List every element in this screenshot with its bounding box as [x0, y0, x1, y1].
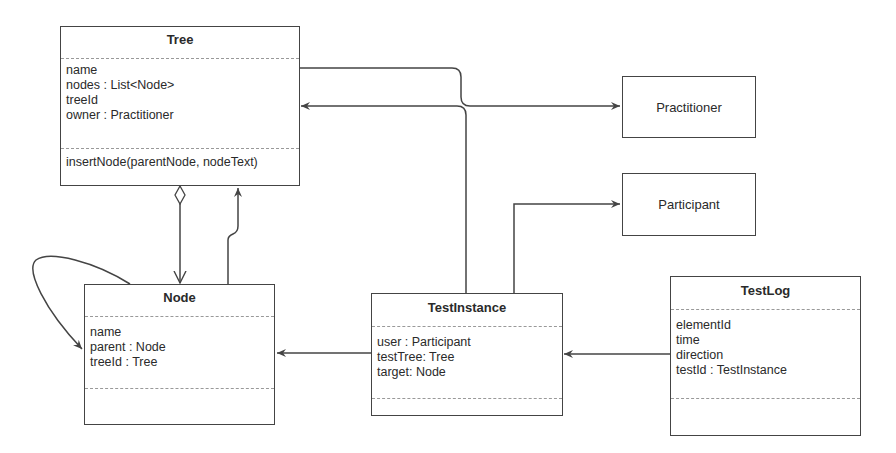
edge-node-tree — [228, 188, 238, 284]
attribute: nodes : List<Node> — [66, 78, 299, 93]
attribute: target: Node — [377, 365, 562, 380]
edge-testinstance-participant — [514, 204, 620, 293]
class-attributes: user : Participant testTree: Tree target… — [372, 327, 562, 399]
class-attributes: name nodes : List<Node> treeId owner : P… — [61, 59, 299, 149]
class-testinstance[interactable]: TestInstance user : Participant testTree… — [371, 293, 563, 416]
class-title: Practitioner — [656, 100, 722, 115]
class-title: Node — [85, 285, 274, 317]
class-methods — [85, 389, 274, 395]
attribute: direction — [676, 348, 860, 363]
attribute: testTree: Tree — [377, 350, 562, 365]
class-practitioner[interactable]: Practitioner — [622, 76, 756, 138]
class-title: TestInstance — [372, 294, 562, 327]
class-methods: insertNode(parentNode, nodeText) — [61, 149, 299, 170]
class-participant[interactable]: Participant — [622, 173, 756, 236]
class-node[interactable]: Node name parent : Node treeId : Tree — [84, 284, 275, 425]
attribute: user : Participant — [377, 335, 562, 350]
edge-testinstance-tree — [301, 106, 466, 293]
attribute: name — [90, 325, 274, 340]
class-methods — [671, 399, 860, 405]
edge-tree-practitioner — [299, 68, 620, 106]
class-methods — [372, 399, 562, 405]
attribute: elementId — [676, 318, 860, 333]
class-attributes: name parent : Node treeId : Tree — [85, 317, 274, 389]
attribute: parent : Node — [90, 340, 274, 355]
class-title: Participant — [658, 197, 719, 212]
method: insertNode(parentNode, nodeText) — [66, 155, 299, 170]
class-attributes: elementId time direction testId : TestIn… — [671, 310, 860, 399]
class-tree[interactable]: Tree name nodes : List<Node> treeId owne… — [60, 26, 300, 186]
class-testlog[interactable]: TestLog elementId time direction testId … — [670, 276, 861, 436]
attribute: treeId : Tree — [90, 355, 274, 370]
attribute: name — [66, 63, 299, 78]
attribute: testId : TestInstance — [676, 363, 860, 378]
class-title: TestLog — [671, 277, 860, 310]
class-title: Tree — [61, 27, 299, 59]
attribute: owner : Practitioner — [66, 108, 299, 123]
attribute: treeId — [66, 93, 299, 108]
attribute: time — [676, 333, 860, 348]
